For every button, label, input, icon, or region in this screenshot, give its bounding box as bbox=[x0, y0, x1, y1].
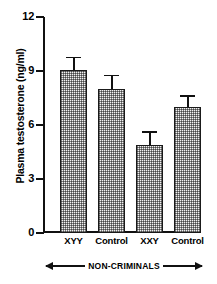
error-bar-cap bbox=[66, 57, 81, 59]
error-bar-cap bbox=[104, 75, 119, 77]
y-tick-mark bbox=[36, 70, 44, 72]
bar[interactable] bbox=[136, 145, 163, 233]
error-bar-cap bbox=[180, 95, 195, 97]
y-tick-mark bbox=[36, 178, 44, 180]
bar[interactable] bbox=[174, 107, 201, 233]
y-tick-label-wrap: 6 bbox=[12, 119, 34, 131]
bar-chart-figure: Plasma testosterone (ng/ml) 129630 XYYCo… bbox=[0, 0, 217, 284]
x-tick-label-control: Control bbox=[165, 236, 211, 246]
plot-area bbox=[45, 17, 198, 233]
y-axis-title: Plasma testosterone (ng/ml) bbox=[14, 16, 26, 216]
error-bar-stem bbox=[149, 133, 151, 145]
arrow-left-icon bbox=[46, 265, 85, 267]
y-tick-label: 0 bbox=[12, 227, 34, 238]
y-tick-mark bbox=[36, 16, 44, 18]
y-tick-label: 9 bbox=[12, 65, 34, 76]
y-tick-label-wrap: 9 bbox=[12, 65, 34, 77]
y-tick-label: 12 bbox=[12, 11, 34, 22]
bar-group bbox=[136, 17, 163, 233]
error-bar-stem bbox=[187, 97, 189, 107]
arrow-right-icon bbox=[163, 265, 202, 267]
error-bar-stem bbox=[111, 76, 113, 89]
y-tick-mark bbox=[36, 124, 44, 126]
y-tick-label: 6 bbox=[12, 119, 34, 130]
error-bar-cap bbox=[142, 131, 157, 133]
bar[interactable] bbox=[98, 89, 125, 233]
error-bar-stem bbox=[73, 58, 75, 70]
bar-group bbox=[98, 17, 125, 233]
y-tick-label-wrap: 12 bbox=[12, 11, 34, 23]
group-annotation-label: NON-CRIMINALS bbox=[88, 262, 160, 271]
bar[interactable] bbox=[60, 70, 87, 233]
group-annotation: NON-CRIMINALS bbox=[46, 259, 202, 273]
y-tick-label-wrap: 3 bbox=[12, 173, 34, 185]
bar-group bbox=[60, 17, 87, 233]
y-tick-label: 3 bbox=[12, 173, 34, 184]
y-tick-label-wrap: 0 bbox=[12, 227, 34, 239]
bar-group bbox=[174, 17, 201, 233]
